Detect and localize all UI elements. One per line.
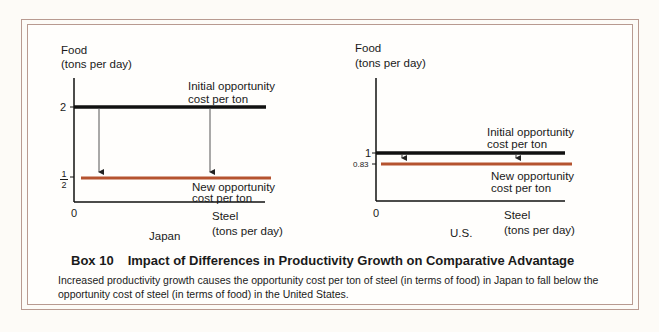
japan-origin: 0 [71,207,77,219]
japan-ytick-half: 1 2 [60,170,68,189]
japan-ylabel-2: (tons per day) [61,58,132,71]
us-ytick-1: 1 [365,147,371,159]
us-ylabel-2: (tons per day) [355,57,426,70]
us-ytick-083: 0.83 [353,160,369,169]
japan-new-label-2: cost per ton [192,192,252,205]
us-initial-label-2: cost per ton [487,138,547,151]
figure-title: Box 10Impact of Differences in Productiv… [71,253,574,268]
us-xlabel-2: (tons per day) [504,224,575,237]
japan-initial-label-1: Initial opportunity [188,80,275,93]
us-new-label-2: cost per ton [491,182,551,195]
japan-xlabel-2: (tons per day) [212,225,283,238]
figure-number: Box 10 [71,253,114,268]
us-xlabel-1: Steel [504,209,530,222]
us-origin: 0 [373,207,379,219]
us-chart-title: U.S. [450,227,472,240]
us-ylabel-1: Food [355,42,381,55]
japan-ytick-2: 2 [60,101,66,113]
japan-ylabel-1: Food [61,44,87,57]
figure-title-text: Impact of Differences in Productivity Gr… [128,253,575,268]
figure-caption: Increased productivity growth causes the… [58,273,618,301]
japan-xlabel-1: Steel [212,210,238,223]
japan-initial-label-2: cost per ton [188,93,248,106]
japan-chart-title: Japan [149,230,180,243]
